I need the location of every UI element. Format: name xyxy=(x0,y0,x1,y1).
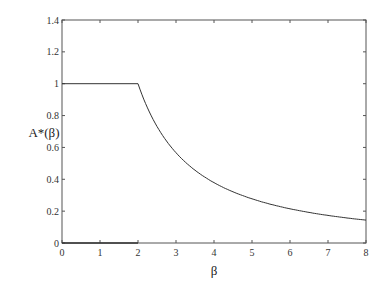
y-tick-label: 1 xyxy=(54,78,59,89)
x-tick-label: 4 xyxy=(212,247,217,258)
x-tick-label: 7 xyxy=(326,247,331,258)
x-axis-label: β xyxy=(211,263,218,278)
x-tick-labels: 012345678 xyxy=(60,247,369,258)
x-tick-label: 8 xyxy=(364,247,369,258)
y-tick-label: 0.2 xyxy=(47,206,60,217)
x-tick-label: 2 xyxy=(136,247,141,258)
x-tick-label: 5 xyxy=(250,247,255,258)
x-tick-label: 0 xyxy=(60,247,65,258)
y-tick-label: 0.4 xyxy=(47,174,60,185)
y-tick-label: 1.2 xyxy=(47,46,60,57)
y-tick-label: 0 xyxy=(54,238,59,249)
y-axis-label: A*(β) xyxy=(28,125,59,140)
x-tick-label: 1 xyxy=(98,247,103,258)
plot-frame xyxy=(62,20,366,243)
x-tick-label: 6 xyxy=(288,247,293,258)
axis-ticks xyxy=(62,20,366,243)
x-tick-label: 3 xyxy=(174,247,179,258)
y-tick-label: 0.8 xyxy=(47,110,60,121)
data-series xyxy=(62,84,366,243)
line-chart: 012345678 00.20.40.60.811.21.4 β A*(β) xyxy=(0,0,382,289)
y-tick-label: 0.6 xyxy=(47,142,60,153)
y-tick-label: 1.4 xyxy=(47,15,60,26)
series-line xyxy=(62,84,366,220)
